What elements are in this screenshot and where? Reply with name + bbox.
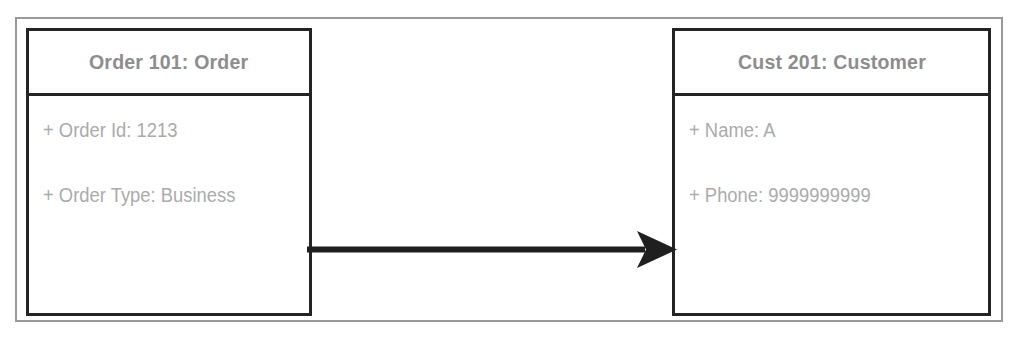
object-attributes-order: + Order Id: 1213 + Order Type: Business (29, 96, 309, 208)
object-attributes-customer: + Name: A + Phone: 9999999999 (675, 96, 988, 208)
attribute-row: + Order Type: Business (43, 183, 288, 208)
object-header-label-order: Order 101: Order (89, 50, 248, 74)
object-box-order[interactable]: Order 101: Order + Order Id: 1213 + Orde… (26, 28, 312, 316)
attribute-row: + Order Id: 1213 (43, 118, 288, 143)
object-header-order: Order 101: Order (29, 31, 309, 96)
object-box-customer[interactable]: Cust 201: Customer + Name: A + Phone: 99… (672, 28, 991, 316)
attribute-row: + Name: A (689, 118, 964, 143)
object-header-label-customer: Cust 201: Customer (738, 50, 926, 74)
attribute-row: + Phone: 9999999999 (689, 183, 964, 208)
object-header-customer: Cust 201: Customer (675, 31, 988, 96)
diagram-canvas: Order 101: Order + Order Id: 1213 + Orde… (0, 0, 1020, 337)
